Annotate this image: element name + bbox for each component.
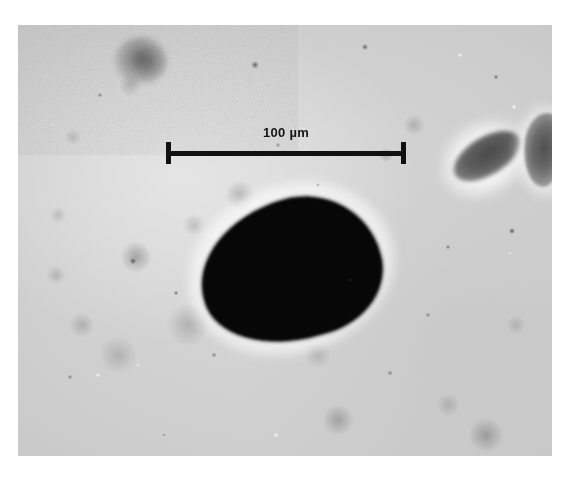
micrograph-image [18,25,552,456]
scale-bar-line [166,151,406,156]
scale-bar-right-cap [401,142,406,164]
scale-bar-label: 100 µm [166,125,406,140]
scale-bar [166,142,406,164]
micrograph-figure: 100 µm [0,0,570,477]
